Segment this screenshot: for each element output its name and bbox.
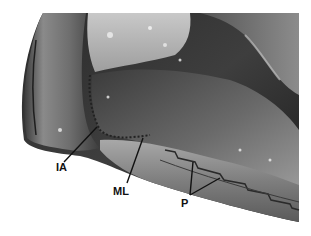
label-p: P [181,198,188,209]
anatomical-photo-figure: IA ML P [0,0,311,236]
label-ml: ML [113,186,129,197]
label-ia: IA [56,162,67,173]
photo-image [0,0,311,236]
